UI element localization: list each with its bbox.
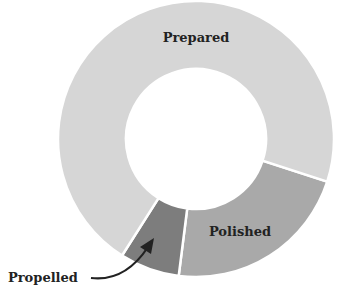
label-prepared: Prepared	[163, 30, 230, 45]
label-polished: Polished	[209, 224, 271, 239]
donut-chart: Prepared Polished Propelled	[0, 0, 343, 304]
slice-polished	[179, 161, 328, 277]
label-propelled: Propelled	[8, 270, 78, 285]
